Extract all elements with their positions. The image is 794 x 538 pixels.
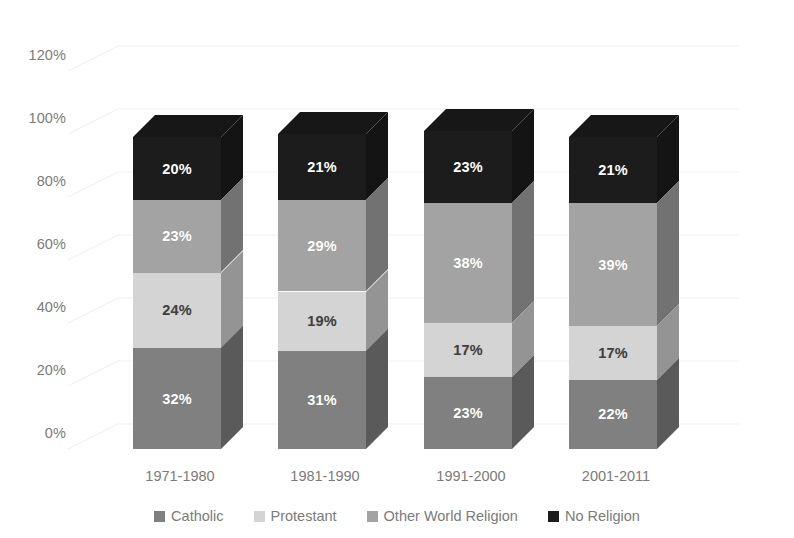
bar-segment-front-face: 21% (278, 134, 366, 200)
chart-container: 120% 100% 80% 60% 40% 20% 0% 32%24%23%20… (0, 0, 794, 538)
bar-segment-front-face: 38% (424, 203, 512, 323)
bar-segment[interactable]: 32% (133, 348, 221, 449)
bar-segment-front-face: 17% (424, 323, 512, 377)
bar-segment[interactable]: 24% (133, 273, 221, 349)
bar-segment-front-face: 39% (569, 203, 657, 326)
x-axis-tick-label: 1971-1980 (105, 468, 255, 484)
y-axis-tick-label: 100% (4, 110, 66, 126)
legend-swatch-icon (548, 511, 559, 522)
y-axis-tick-label: 40% (4, 299, 66, 315)
y-axis-tick-label: 80% (4, 173, 66, 189)
bar-segment[interactable]: 19% (278, 292, 366, 352)
bar-segment-front-face: 21% (569, 137, 657, 203)
legend-swatch-icon (254, 511, 265, 522)
bar-segment[interactable]: 39% (569, 203, 657, 326)
bar-value-label: 29% (307, 238, 337, 254)
bar-segment[interactable]: 21% (278, 134, 366, 200)
bar-segment-front-face: 24% (133, 273, 221, 349)
bar-value-label: 17% (453, 342, 483, 358)
bar-group: 32%24%23%20% (133, 0, 243, 538)
bar-value-label: 31% (307, 392, 337, 408)
bar-segment[interactable]: 23% (424, 377, 512, 449)
bar-value-label: 23% (162, 228, 192, 244)
legend-label: Protestant (271, 508, 337, 524)
legend-swatch-icon (154, 511, 165, 522)
bar-value-label: 21% (598, 162, 628, 178)
bar-segment[interactable]: 17% (569, 326, 657, 380)
bar-segment-front-face: 32% (133, 348, 221, 449)
bar-value-label: 32% (162, 391, 192, 407)
bar-segment[interactable]: 31% (278, 351, 366, 449)
bar-segment-front-face: 20% (133, 137, 221, 200)
bar-segment-front-face: 31% (278, 351, 366, 449)
y-axis-tick-label: 120% (4, 47, 66, 63)
bar-segment[interactable]: 20% (133, 137, 221, 200)
bar-segment-side-face (366, 329, 388, 449)
bar-segment-front-face: 19% (278, 292, 366, 352)
bar-group: 23%17%38%23% (424, 0, 534, 538)
bar-segment-front-face: 22% (569, 380, 657, 449)
bar-value-label: 17% (598, 345, 628, 361)
bar-segment-front-face: 23% (424, 377, 512, 449)
x-axis-tick-label: 1991-2000 (396, 468, 546, 484)
bar-group: 22%17%39%21% (569, 0, 679, 538)
bar-segment[interactable]: 21% (569, 137, 657, 203)
bar-value-label: 39% (598, 257, 628, 273)
bar-segment-side-face (657, 181, 679, 326)
bar-value-label: 20% (162, 161, 192, 177)
x-axis-tick-label: 1981-1990 (250, 468, 400, 484)
y-axis-tick-label: 0% (4, 425, 66, 441)
bar-segment[interactable]: 17% (424, 323, 512, 377)
legend-item-other-world-religion[interactable]: Other World Religion (367, 508, 518, 524)
bar-segment-side-face (512, 181, 534, 323)
y-axis-tick-label: 60% (4, 236, 66, 252)
bar-value-label: 22% (598, 406, 628, 422)
bar-segment-side-face (221, 326, 243, 449)
bar-segment[interactable]: 29% (278, 200, 366, 291)
legend-label: Catholic (171, 508, 223, 524)
y-axis-tick-label: 20% (4, 362, 66, 378)
bar-value-label: 24% (162, 302, 192, 318)
chart-legend: Catholic Protestant Other World Religion… (0, 508, 794, 524)
legend-swatch-icon (367, 511, 378, 522)
bar-value-label: 21% (307, 159, 337, 175)
bar-segment-front-face: 23% (424, 131, 512, 203)
bar-segment[interactable]: 38% (424, 203, 512, 323)
bar-segment-front-face: 17% (569, 326, 657, 380)
bar-segment[interactable]: 23% (133, 200, 221, 272)
bar-value-label: 38% (453, 255, 483, 271)
bar-value-label: 23% (453, 405, 483, 421)
legend-label: No Religion (565, 508, 640, 524)
bar-value-label: 23% (453, 159, 483, 175)
legend-item-catholic[interactable]: Catholic (154, 508, 223, 524)
x-axis-tick-label: 2001-2011 (541, 468, 691, 484)
legend-item-protestant[interactable]: Protestant (254, 508, 337, 524)
legend-item-no-religion[interactable]: No Religion (548, 508, 640, 524)
bar-segment[interactable]: 23% (424, 131, 512, 203)
legend-label: Other World Religion (384, 508, 518, 524)
bar-segment[interactable]: 22% (569, 380, 657, 449)
bar-value-label: 19% (307, 313, 337, 329)
bar-segment-front-face: 29% (278, 200, 366, 291)
bar-group: 31%19%29%21% (278, 0, 388, 538)
bar-segment-front-face: 23% (133, 200, 221, 272)
